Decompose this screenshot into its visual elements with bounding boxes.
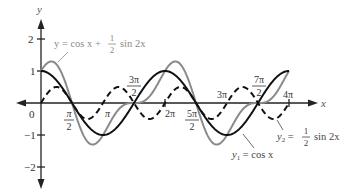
svg-text:5π: 5π: [187, 108, 197, 119]
y-tick-label-m1: −1: [24, 129, 36, 141]
svg-text:sin 2x: sin 2x: [314, 131, 340, 142]
cos-curve-annotation: y1 = cos x: [231, 134, 274, 162]
x-axis-label: x: [320, 97, 326, 109]
y-tick-label-2: 2: [28, 33, 34, 45]
x-tick-label-2pi: 2π: [165, 108, 175, 119]
svg-text:π: π: [66, 108, 72, 119]
svg-text:1: 1: [110, 33, 115, 43]
x-tick-label-3pi: 3π: [217, 89, 227, 100]
y-tick-label-1: 1: [30, 65, 36, 77]
svg-text:y = cos x +: y = cos x +: [54, 38, 101, 49]
y-axis-label: y: [36, 3, 42, 15]
half-sin-leader-line: [277, 120, 283, 130]
chart: y x 0 2 1 −1 −2 π 2 π 3π 2 2π 5π 2 3π 7π…: [0, 0, 351, 194]
y-tick-label-m2: −2: [24, 161, 36, 173]
half-sin-annotation: y2 = 1 2 sin 2x: [276, 120, 340, 148]
svg-text:y2 =: y2 =: [276, 131, 294, 144]
x-tick-label-5pi-half: 5π 2: [185, 108, 199, 132]
cos-leader-line: [243, 134, 254, 148]
y-axis-arrow-down-icon: [38, 179, 45, 189]
x-axis-arrow-right-icon: [308, 100, 318, 107]
svg-text:2: 2: [110, 45, 115, 55]
svg-text:2: 2: [132, 87, 137, 98]
svg-text:3π: 3π: [129, 74, 139, 85]
svg-text:y1 = cos x: y1 = cos x: [231, 149, 274, 162]
svg-text:1: 1: [304, 126, 309, 136]
y-axis-arrow-up-icon: [38, 19, 45, 29]
x-tick-label-pi-half: π 2: [64, 108, 74, 132]
svg-text:2: 2: [67, 121, 72, 132]
x-tick-label-pi: π: [105, 108, 111, 119]
origin-label: 0: [29, 108, 35, 120]
x-tick-label-4pi: 4π: [283, 89, 293, 100]
svg-text:2: 2: [190, 121, 195, 132]
x-axis-arrow-left-icon: [16, 100, 26, 107]
sum-leader-line: [58, 52, 68, 62]
sum-curve-annotation: y = cos x + 1 2 sin 2x: [54, 33, 146, 62]
svg-text:2: 2: [304, 138, 309, 148]
svg-text:sin 2x: sin 2x: [120, 38, 146, 49]
svg-text:2: 2: [257, 87, 262, 98]
svg-text:7π: 7π: [254, 74, 264, 85]
